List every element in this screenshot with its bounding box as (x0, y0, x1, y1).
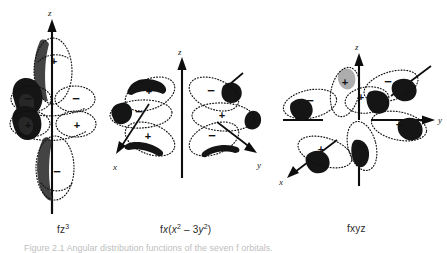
fx-sign-mid-right: + (219, 109, 225, 121)
fz3-sign-upper-right: − (72, 91, 80, 106)
fx-sign-upper-left: + (146, 85, 152, 97)
orbital-label-fz3-sup: 3 (65, 223, 69, 230)
fxyz-z-axis (354, 53, 363, 120)
fz3-sign-top: + (51, 55, 57, 67)
fxyz-sign-center-upper: + (358, 91, 364, 103)
fz3-axis-label-z: z (47, 8, 52, 18)
fx-sign-mid-left: − (135, 104, 143, 119)
fxyz-sign-mid-right: + (396, 118, 402, 130)
orbital-label-fx-operator: – 3 (181, 224, 198, 235)
fx-axis-label-y: y (256, 160, 261, 170)
fxyz-sign-lower-left: + (318, 143, 324, 155)
fz3-sign-lower-right: + (74, 119, 80, 131)
fxyz-axis-label-x: x (278, 177, 283, 187)
fxyz-sign-upper-near-left: + (342, 76, 348, 88)
fxyz-sign-upper-right: − (384, 74, 392, 89)
orbital-label-fx-close: ) (208, 224, 212, 235)
fx-sign-lower-right: − (208, 128, 216, 143)
fx-axis-label-x: x (112, 162, 117, 172)
orbital-diagram-fxyz: z y x + (275, 0, 447, 222)
orbital-label-fz3-base: fz (57, 224, 65, 235)
fx-sign-upper-right: − (207, 83, 215, 98)
fxyz-sign-mid-far-left: − (306, 93, 314, 108)
fz3-sign-bottom: − (53, 164, 61, 179)
figure-caption: Figure 2.1 Angular distribution function… (24, 243, 439, 253)
fxyz-axis-label-z: z (354, 42, 359, 52)
orbital-label-fz3: fz3 (57, 223, 69, 235)
fx-x2-3y2-svg: z y x + (105, 0, 280, 222)
fx-z-axis (177, 57, 186, 178)
fxyz-svg: z y x + (275, 0, 447, 222)
orbital-diagram-fx-x2-3y2: z y x + (105, 0, 280, 222)
orbital-label-fxyz: fxyz (347, 223, 366, 234)
fxyz-axis-label-y: y (437, 115, 442, 125)
fz3-sign-upper-left: − (24, 91, 32, 106)
fx-axis-label-z: z (177, 47, 182, 57)
fz3-sign-lower-left: + (25, 119, 31, 131)
fxyz-sign-lower-center: − (359, 139, 367, 154)
fx-sign-lower-left: + (145, 130, 151, 142)
fxyz-lobe-lower-left (294, 130, 356, 174)
orbital-label-fx-x2-3y2: fx(x2 – 3y2) (160, 223, 211, 235)
